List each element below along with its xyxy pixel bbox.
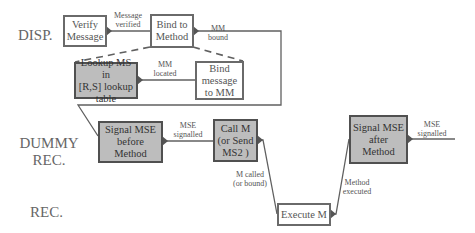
- node-execute-m: Execute M: [277, 203, 331, 226]
- edge-label-text: MM: [203, 24, 233, 33]
- node-text: Method: [353, 146, 404, 158]
- node-text: Execute M: [281, 209, 327, 221]
- edge-label-text: MSE: [410, 120, 454, 129]
- node-bind-to-method: Bind toMethod: [150, 14, 194, 48]
- node-signal-mse-before: Signal MSEbeforeMethod: [98, 121, 163, 163]
- edge-label-text: Method: [339, 178, 375, 187]
- edge-label-text: verified: [108, 20, 148, 29]
- node-text: Method: [105, 148, 156, 160]
- edge-label-text: located: [145, 69, 185, 78]
- edge-label-text: (or bound): [228, 179, 272, 188]
- node-text: (or Send: [218, 135, 254, 147]
- edge-label-mm-bound: MMbound: [203, 24, 233, 42]
- node-bind-message-to-mm: Bindmessageto MM: [195, 61, 244, 100]
- node-text: MS2 ): [218, 147, 254, 159]
- node-text: after: [353, 134, 404, 146]
- node-text: table: [76, 93, 136, 105]
- edge-label-text: Message: [108, 11, 148, 20]
- edge-method-executed: [330, 139, 349, 214]
- edge-label-text: MSE: [166, 121, 210, 130]
- lane-label-dummy-rec: DUMMY REC.: [16, 135, 82, 169]
- lane-label-line: DUMMY: [16, 135, 82, 152]
- node-verify-message: VerifyMessage: [63, 15, 107, 47]
- edge-label-text: signalled: [166, 130, 210, 139]
- node-text: message: [202, 75, 238, 87]
- edge-label-text: MM: [145, 60, 185, 69]
- node-text: Signal MSE: [105, 124, 156, 136]
- node-text: to MM: [202, 87, 238, 99]
- node-lookup-ms: Lookup MS in[R,S] lookuptable: [74, 62, 138, 99]
- node-text: Bind to: [156, 19, 189, 31]
- edge-label-text: signalled: [410, 129, 454, 138]
- edge-label-text: M called: [228, 170, 272, 179]
- node-signal-mse-after: Signal MSEafterMethod: [349, 115, 408, 164]
- lane-label-rec: REC.: [30, 204, 63, 221]
- edge-label-method-executed: Methodexecuted: [339, 178, 375, 196]
- edge-label-mse-signalled-out: MSEsignalled: [410, 120, 454, 138]
- edge-label-m-called: M called(or bound): [228, 170, 272, 188]
- node-text: Call M: [218, 123, 254, 135]
- node-text: Message: [67, 31, 104, 43]
- node-text: before: [105, 136, 156, 148]
- node-text: Bind: [202, 63, 238, 75]
- node-call-m: Call M(or SendMS2 ): [213, 119, 258, 162]
- node-text: Signal MSE: [353, 122, 404, 134]
- edge-label-mm-located: MMlocated: [145, 60, 185, 78]
- node-text: Method: [156, 31, 189, 43]
- node-text: Lookup MS in: [76, 57, 136, 81]
- edge-label-text: bound: [203, 33, 233, 42]
- edge-label-text: executed: [339, 187, 375, 196]
- lane-label-disp: DISP.: [18, 27, 53, 44]
- edge-label-message-verified: Messageverified: [108, 11, 148, 29]
- edge-label-mse-signalled: MSEsignalled: [166, 121, 210, 139]
- lane-label-line: REC.: [16, 152, 82, 169]
- node-text: Verify: [67, 19, 104, 31]
- expansion-dashed-right: [193, 47, 243, 61]
- node-text: [R,S] lookup: [76, 81, 136, 93]
